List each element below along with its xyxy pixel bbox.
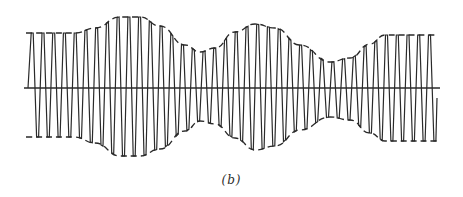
am-waveform-diagram bbox=[0, 0, 463, 197]
figure-caption: (b) bbox=[0, 173, 463, 187]
